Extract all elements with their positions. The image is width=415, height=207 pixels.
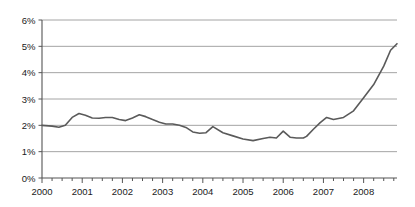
x-axis-labels-group: 200020012002200320042005200620072008 bbox=[31, 186, 374, 197]
chart-background bbox=[0, 0, 415, 207]
x-tick-label: 2005 bbox=[232, 186, 253, 197]
y-tick-label: 4% bbox=[22, 67, 36, 78]
x-tick-label: 2002 bbox=[112, 186, 133, 197]
y-tick-label: 6% bbox=[22, 15, 36, 26]
line-chart: 0%1%2%3%4%5%6% 2000200120022003200420052… bbox=[0, 0, 415, 207]
x-tick-label: 2006 bbox=[273, 186, 294, 197]
x-tick-label: 2000 bbox=[31, 186, 52, 197]
y-tick-label: 1% bbox=[22, 146, 36, 157]
x-tick-label: 2004 bbox=[192, 186, 213, 197]
x-tick-label: 2008 bbox=[353, 186, 374, 197]
y-tick-label: 2% bbox=[22, 120, 36, 131]
chart-canvas: 0%1%2%3%4%5%6% 2000200120022003200420052… bbox=[0, 0, 415, 207]
x-tick-label: 2007 bbox=[313, 186, 334, 197]
y-tick-label: 3% bbox=[22, 94, 36, 105]
y-tick-label: 5% bbox=[22, 41, 36, 52]
y-tick-label: 0% bbox=[22, 173, 36, 184]
x-tick-label: 2001 bbox=[72, 186, 93, 197]
x-tick-label: 2003 bbox=[152, 186, 173, 197]
